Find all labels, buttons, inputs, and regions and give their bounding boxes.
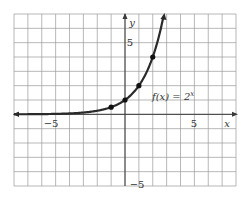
data-point — [122, 97, 127, 102]
data-point — [136, 83, 141, 88]
y-tick-label-neg5: −5 — [130, 179, 145, 190]
y-axis-label: y — [128, 17, 135, 28]
data-point — [109, 105, 114, 110]
data-point — [150, 54, 155, 59]
x-axis-right-arrow-icon — [232, 112, 238, 117]
x-axis-label: x — [224, 118, 230, 129]
marked-points — [109, 54, 156, 109]
x-tick-label-5: 5 — [191, 118, 197, 129]
function-label: f(x) = 2x — [151, 90, 194, 102]
y-tick-label-5: 5 — [127, 37, 133, 48]
exponential-graph: −5 5 5 −5 x y f(x) = 2x — [0, 0, 246, 199]
x-tick-label-neg5: −5 — [44, 118, 59, 129]
